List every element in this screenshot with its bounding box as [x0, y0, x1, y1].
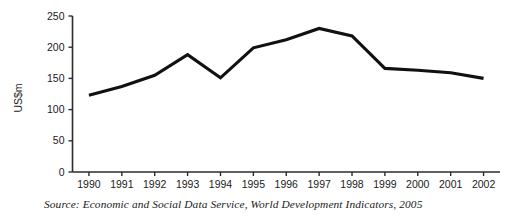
y-tick-label: 150	[47, 72, 65, 84]
x-tick-label: 1997	[307, 178, 331, 190]
x-tick-label: 1995	[242, 178, 266, 190]
x-tick-label: 1994	[209, 178, 233, 190]
x-axis: 1990199119921993199419951996199719981999…	[73, 172, 501, 190]
x-tick-label: 1993	[176, 178, 200, 190]
source-note: Source: Economic and Social Data Service…	[44, 198, 422, 210]
y-tick-label: 200	[47, 41, 65, 53]
y-axis: 050100150200250 US$m	[12, 10, 73, 178]
x-tick-label: 1999	[373, 178, 397, 190]
y-axis-title: US$m	[12, 83, 24, 112]
x-tick-label: 2001	[439, 178, 463, 190]
y-axis-tick-labels: 050100150200250	[47, 10, 65, 178]
x-axis-tick-labels: 1990199119921993199419951996199719981999…	[77, 178, 495, 190]
x-tick-label: 1990	[77, 178, 101, 190]
x-tick-label: 2002	[472, 178, 496, 190]
x-tick-label: 1998	[340, 178, 364, 190]
y-tick-label: 50	[53, 134, 65, 146]
series-line-usd-millions	[89, 28, 484, 95]
x-tick-label: 1992	[143, 178, 167, 190]
line-chart-plot: 050100150200250 US$m 1990199119921993199…	[0, 0, 516, 218]
x-tick-label: 1991	[110, 178, 134, 190]
y-tick-label: 100	[47, 103, 65, 115]
x-tick-label: 1996	[275, 178, 299, 190]
y-tick-label: 0	[59, 166, 65, 178]
data-series-group	[89, 28, 484, 95]
y-tick-label: 250	[47, 10, 65, 22]
chart-figure: 050100150200250 US$m 1990199119921993199…	[0, 0, 516, 218]
x-tick-label: 2000	[406, 178, 430, 190]
